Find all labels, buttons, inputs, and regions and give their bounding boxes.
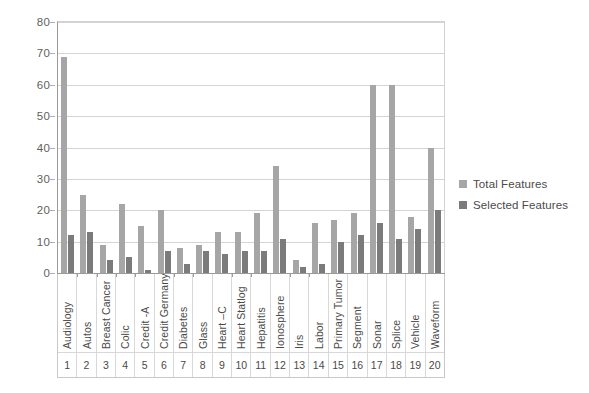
bar-selected-features [126, 257, 132, 273]
category-index-cell: 4 [116, 352, 134, 377]
legend-item: Selected Features [459, 199, 585, 211]
category-name-label: Primary Tumor [332, 279, 344, 349]
bar-total-features [370, 85, 376, 273]
bar-selected-features [261, 251, 267, 273]
category-name-cell: Glass [193, 274, 211, 352]
bar-total-features [61, 57, 67, 273]
category-column: Ionosphere12 [271, 274, 290, 377]
category-axis-table: Audiology1Autos2Breast Cancer3Colic4Cred… [57, 274, 445, 378]
category-name-cell: Diabetes [174, 274, 192, 352]
bar-group [135, 22, 154, 273]
category-name-label: Vehicle [409, 314, 421, 349]
category-index-cell: 1 [58, 352, 76, 377]
bar-total-features [235, 232, 241, 273]
bar-selected-features [184, 264, 190, 273]
category-index-cell: 9 [213, 352, 231, 377]
bar-group [174, 22, 193, 273]
bar-group [270, 22, 289, 273]
chart-screenshot: 01020304050607080 Audiology1Autos2Breast… [0, 0, 589, 393]
category-name-cell: Hepatitis [251, 274, 269, 352]
bar-group [116, 22, 135, 273]
bar-selected-features [242, 251, 248, 273]
y-axis-tick-mark [50, 22, 55, 23]
category-column: Glass8 [193, 274, 212, 377]
category-index-cell: 11 [251, 352, 269, 377]
category-column: Vehicle19 [406, 274, 425, 377]
category-column: Primary Tumor15 [329, 274, 348, 377]
category-name-cell: Iris [290, 274, 308, 352]
bar-total-features [138, 226, 144, 273]
y-axis-tick-mark [50, 148, 55, 149]
bar-selected-features [87, 232, 93, 273]
category-name-label: Hepatitis [255, 307, 267, 349]
category-column: Iris13 [290, 274, 309, 377]
bar-selected-features [145, 270, 151, 273]
category-name-cell: Primary Tumor [329, 274, 347, 352]
category-column: Credit Germany6 [155, 274, 174, 377]
bar-group [405, 22, 424, 273]
category-name-label: Glass [197, 322, 209, 349]
bar-total-features [254, 213, 260, 273]
category-name-label: Splice [390, 320, 402, 349]
category-index-cell: 8 [193, 352, 211, 377]
bar-selected-features [107, 260, 113, 273]
bar-total-features [119, 204, 125, 273]
legend-swatch-icon [459, 201, 467, 209]
bar-group [97, 22, 116, 273]
category-name-label: Diabetes [177, 307, 189, 349]
bar-total-features [428, 148, 434, 274]
bar-selected-features [165, 251, 171, 273]
category-index-cell: 19 [406, 352, 424, 377]
bar-selected-features [222, 254, 228, 273]
category-name-label: Labor [313, 322, 325, 349]
category-column: Credit -A5 [135, 274, 154, 377]
category-name-cell: Segment [348, 274, 366, 352]
bar-total-features [80, 195, 86, 273]
category-index-cell: 10 [232, 352, 250, 377]
category-column: Sonar17 [368, 274, 387, 377]
bar-total-features [158, 210, 164, 273]
category-column: Labor14 [309, 274, 328, 377]
bar-group [425, 22, 444, 273]
bar-selected-features [203, 251, 209, 273]
y-axis: 01020304050607080 [0, 21, 50, 274]
category-name-cell: Splice [387, 274, 405, 352]
category-name-label: Audiology [61, 302, 73, 349]
category-column: Waveform20 [426, 274, 444, 377]
bar-group [348, 22, 367, 273]
bar-selected-features [280, 239, 286, 274]
bar-group [367, 22, 386, 273]
category-name-cell: Heart Statlog [232, 274, 250, 352]
y-axis-tick-label: 50 [6, 110, 50, 122]
category-column: Audiology1 [58, 274, 77, 377]
category-name-label: Waveform [429, 301, 441, 349]
bar-total-features [312, 223, 318, 273]
category-column: Heart –C9 [213, 274, 232, 377]
legend: Total FeaturesSelected Features [459, 178, 585, 220]
category-index-cell: 15 [329, 352, 347, 377]
bar-total-features [196, 245, 202, 273]
category-name-cell: Credit Germany [155, 274, 173, 352]
category-column: Hepatitis11 [251, 274, 270, 377]
category-index-cell: 14 [309, 352, 327, 377]
category-name-cell: Labor [309, 274, 327, 352]
bar-group [290, 22, 309, 273]
y-axis-tick-mark [50, 273, 55, 274]
category-name-cell: Sonar [368, 274, 386, 352]
y-axis-tick-label: 0 [6, 267, 50, 279]
y-axis-tick-label: 40 [6, 142, 50, 154]
category-index-cell: 17 [368, 352, 386, 377]
category-column: Colic4 [116, 274, 135, 377]
y-axis-tick-mark [50, 116, 55, 117]
category-name-cell: Vehicle [406, 274, 424, 352]
bar-total-features [408, 217, 414, 273]
category-index-cell: 6 [155, 352, 173, 377]
category-name-label: Credit -A [139, 307, 151, 349]
bar-total-features [293, 260, 299, 273]
category-index-cell: 3 [97, 352, 115, 377]
y-axis-tick-mark [50, 53, 55, 54]
category-index-cell: 2 [77, 352, 95, 377]
y-axis-tick-label: 70 [6, 47, 50, 59]
category-index-cell: 16 [348, 352, 366, 377]
category-name-label: Autos [81, 322, 93, 349]
